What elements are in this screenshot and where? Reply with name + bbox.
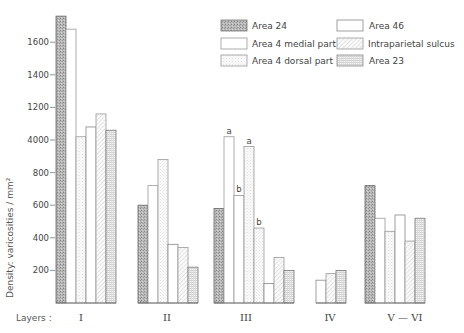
legend-item-intraparietal-sulcus: Intraparietal sulcus [337,38,455,49]
y-axis: 2004006008004000120014001600 [27,37,55,275]
y-tick: 4000 [27,135,55,145]
bar [395,215,405,303]
bar [365,186,375,303]
x-category-label: III [240,312,252,323]
legend-swatch-white [337,20,363,31]
bar [336,270,346,303]
x-category-label: I [79,312,83,323]
x-axis-title: Layers : [16,313,52,323]
bar-annotation: b [236,184,241,194]
bar [178,248,188,303]
bar [168,244,178,303]
bar [106,130,116,303]
bar [264,283,274,303]
legend-item-area-4-dorsal: Area 4 dorsal part [221,55,334,66]
x-category-label: IV [324,312,336,323]
bar-annotation: a [246,136,251,146]
bar [316,280,326,303]
y-tick-label: 200 [33,265,49,275]
y-tick-label: 1200 [27,102,49,112]
y-axis-title: Density: varicosities / mm² [5,177,15,298]
bar-annotation: a [226,126,231,136]
bar [326,274,336,303]
y-tick-label: 600 [33,200,49,210]
bar [234,195,244,303]
y-tick: 1600 [27,37,55,47]
bar [284,270,294,303]
legend-swatch-white [221,38,247,49]
bar [188,267,198,303]
bar-group-layer-2 [138,160,198,303]
legend: Area 24 Area 4 medial part Area 4 dorsal… [221,20,455,66]
y-tick-label: 1600 [27,37,49,47]
bar-group-layer-4 [316,270,346,303]
bar [224,137,234,303]
legend-label: Area 24 [252,21,287,31]
y-tick-label: 4000 [27,135,49,145]
x-axis-categories: IIIIIIIVV — VI [79,312,422,323]
bar [385,231,395,303]
bar [244,147,254,303]
bar [76,137,86,303]
bar [56,16,66,303]
y-tick-label: 400 [33,233,49,243]
y-tick: 400 [33,233,55,243]
bar-group-layer-3: abab [214,126,294,303]
bar-chart: 2004006008004000120014001600 abab IIIIII… [0,0,464,333]
legend-label: Area 4 dorsal part [252,56,334,66]
bar [254,228,264,303]
bar [86,127,96,303]
y-tick: 800 [33,168,55,178]
bar [375,218,385,303]
legend-swatch-dark-stipple [221,20,247,31]
legend-label: Area 46 [369,21,404,31]
bar [96,114,106,303]
y-tick-label: 800 [33,168,49,178]
y-tick: 200 [33,265,55,275]
bar [158,160,168,303]
bar-annotation: b [256,217,261,227]
bar [214,208,224,303]
y-tick: 1200 [27,102,55,112]
legend-item-area-46: Area 46 [337,20,404,31]
bar-group-layer-5 [365,186,425,303]
bar [415,218,425,303]
bar [405,241,415,303]
legend-label: Intraparietal sulcus [368,39,455,49]
y-tick: 1400 [27,70,55,80]
bar [66,29,76,303]
legend-item-area-23: Area 23 [337,55,404,66]
legend-label: Area 23 [369,56,404,66]
legend-swatch-light-stipple [221,55,247,66]
legend-swatch-grid [337,55,363,66]
x-category-label: II [163,312,171,323]
legend-label: Area 4 medial part [252,39,336,49]
y-tick: 600 [33,200,55,210]
legend-swatch-diagonal-hatch [337,38,363,49]
y-tick-label: 1400 [27,70,49,80]
bar-group-layer-1 [56,16,116,303]
bar [148,186,158,303]
x-category-label: V — VI [387,312,423,323]
bar [274,257,284,303]
legend-item-area-24: Area 24 [221,20,287,31]
legend-item-area-4-medial: Area 4 medial part [221,38,336,49]
bar [138,205,148,303]
